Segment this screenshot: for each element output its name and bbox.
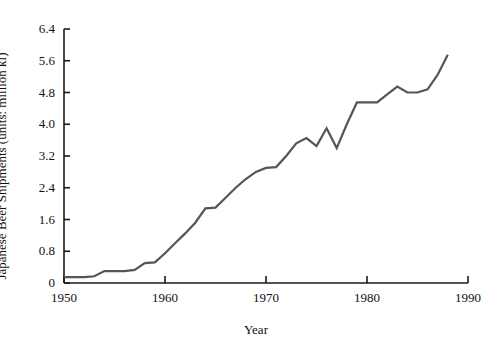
x-axis-tick-label: 1980 bbox=[354, 290, 380, 306]
x-axis-tick-label: 1950 bbox=[51, 290, 77, 306]
x-axis-tick-label: 1990 bbox=[455, 290, 481, 306]
x-axis-title: Year bbox=[244, 322, 268, 338]
y-axis-tick-label: 0.8 bbox=[0, 243, 55, 259]
y-axis-tick-label: 5.6 bbox=[0, 53, 55, 69]
y-axis-tick-label: 4.0 bbox=[0, 116, 55, 132]
series-line-japanese-beer-shipments bbox=[64, 55, 448, 277]
x-axis-ticks bbox=[64, 276, 468, 283]
axes bbox=[64, 29, 468, 283]
chart-figure: Japanese Beer Shipments (units: million … bbox=[0, 0, 492, 348]
y-axis-tick-label: 3.2 bbox=[0, 148, 55, 164]
y-axis-tick-label: 6.4 bbox=[0, 21, 55, 37]
y-axis-tick-label: 1.6 bbox=[0, 212, 55, 228]
y-axis-tick-label: 0 bbox=[0, 275, 55, 291]
y-axis-tick-label: 4.8 bbox=[0, 85, 55, 101]
y-axis-tick-label: 2.4 bbox=[0, 180, 55, 196]
x-axis-tick-label: 1960 bbox=[152, 290, 178, 306]
x-axis-tick-label: 1970 bbox=[253, 290, 279, 306]
data-series bbox=[64, 55, 448, 277]
y-axis-ticks bbox=[64, 29, 70, 283]
